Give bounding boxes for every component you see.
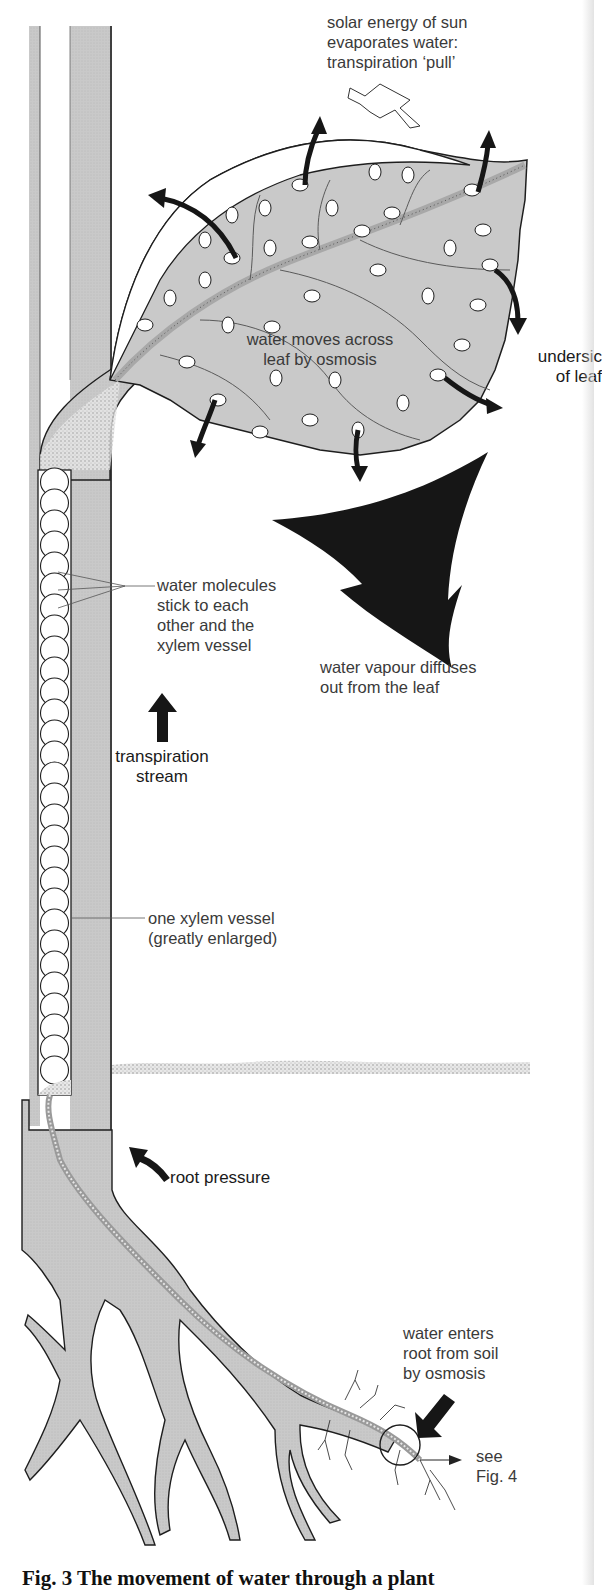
water-enters-root-label: water enters root from soil by osmosis [403, 1323, 533, 1383]
transpiration-arrow-icon [148, 693, 177, 742]
figure-caption: Fig. 3 The movement of water through a p… [22, 1566, 434, 1591]
molecules-stick-label: water molecules stick to each other and … [157, 575, 317, 655]
soil-entry-arrow-icon [415, 1394, 455, 1438]
xylem-vessel [38, 468, 71, 1095]
vapour-diffuses-label: water vapour diffuses out from the leaf [320, 657, 520, 697]
one-xylem-vessel-label: one xylem vessel (greatly enlarged) [148, 908, 328, 948]
see-fig-arrow-icon [420, 1455, 462, 1465]
solar-energy-label: solar energy of sun evaporates water: tr… [327, 12, 517, 72]
see-fig-label: see Fig. 4 [476, 1446, 536, 1486]
soil-surface [112, 1061, 530, 1074]
water-molecules [41, 468, 69, 1084]
root-pressure-arrow-icon [129, 1147, 167, 1180]
page-edge-shadow [582, 0, 594, 1585]
root-system [22, 1095, 455, 1545]
water-moves-label: water moves across leaf by osmosis [225, 329, 415, 369]
root-pressure-label: root pressure [170, 1168, 310, 1188]
leaf [110, 140, 527, 455]
sun-arrow-icon [348, 84, 420, 128]
transpiration-stream-label: transpiration stream [112, 747, 212, 787]
stem-right-cortex [70, 26, 112, 1146]
